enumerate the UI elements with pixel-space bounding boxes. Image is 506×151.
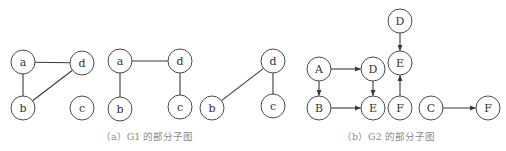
node-b: b <box>200 96 224 120</box>
g2-subgraph-3: CF <box>419 96 500 120</box>
node-E: E <box>361 96 385 120</box>
g1-subgraph-2: adbc <box>108 49 192 121</box>
node-D: D <box>388 9 412 33</box>
node-b: b <box>11 96 35 120</box>
svg-text:F: F <box>396 102 404 115</box>
g1-partial-subgraphs: adbcadbcbdc <box>11 49 285 121</box>
edge-b-d <box>33 70 73 100</box>
g2-subgraph-2: DEF <box>388 9 412 120</box>
svg-text:B: B <box>315 102 323 115</box>
caption-g1: （a）G1 的部分子图 <box>101 129 193 143</box>
svg-text:E: E <box>369 102 377 115</box>
g1-subgraph-3: bdc <box>200 49 285 120</box>
svg-text:d: d <box>78 57 85 70</box>
svg-text:a: a <box>20 56 27 69</box>
caption-g2: （b）G2 的部分子图 <box>342 129 435 143</box>
g2-partial-subgraphs: ADBEDEFCF <box>307 9 500 120</box>
svg-text:c: c <box>79 102 85 115</box>
edge-a-d <box>35 62 70 63</box>
svg-text:E: E <box>396 57 404 70</box>
node-c: c <box>168 95 192 119</box>
svg-text:D: D <box>369 63 378 76</box>
edge-b-d <box>222 68 264 100</box>
g2-subgraph-1: ADBE <box>307 57 385 120</box>
svg-text:b: b <box>19 102 26 115</box>
node-F: F <box>476 96 500 120</box>
node-F: F <box>388 96 412 120</box>
node-a: a <box>11 50 35 74</box>
node-c: c <box>261 94 285 118</box>
node-a: a <box>108 49 132 73</box>
node-D: D <box>361 57 385 81</box>
svg-text:C: C <box>427 102 435 115</box>
svg-text:c: c <box>270 100 276 113</box>
node-B: B <box>307 96 331 120</box>
node-E: E <box>388 51 412 75</box>
svg-text:b: b <box>116 103 123 116</box>
node-d: d <box>261 49 285 73</box>
svg-text:d: d <box>269 55 276 68</box>
node-A: A <box>307 57 331 81</box>
node-c: c <box>70 96 94 120</box>
node-d: d <box>70 51 94 75</box>
svg-text:c: c <box>177 101 183 114</box>
svg-text:d: d <box>176 55 183 68</box>
node-b: b <box>108 97 132 121</box>
svg-text:D: D <box>396 15 405 28</box>
svg-text:F: F <box>484 102 492 115</box>
node-C: C <box>419 96 443 120</box>
svg-text:b: b <box>208 102 215 115</box>
svg-text:A: A <box>314 63 324 76</box>
svg-text:a: a <box>117 55 124 68</box>
g1-subgraph-1: adbc <box>11 50 94 120</box>
node-d: d <box>168 49 192 73</box>
